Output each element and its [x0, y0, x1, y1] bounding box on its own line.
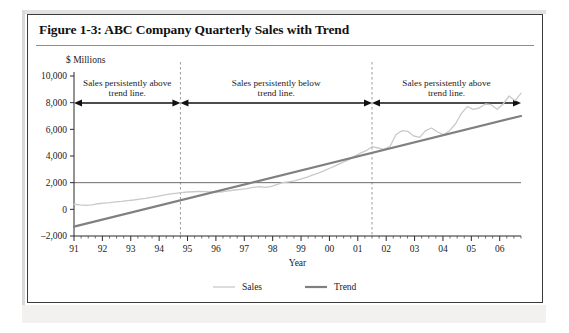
page-background: Figure 1-3: ABC Company Quarterly Sales …	[0, 0, 569, 333]
y-axis-tick-label: 8,000	[46, 98, 68, 108]
series-line-sales	[74, 93, 521, 205]
axis-label-group: Year	[289, 258, 307, 268]
annotation-text-line1: Sales persistently above	[402, 78, 490, 88]
annotation-text-line1: Sales persistently below	[232, 78, 321, 88]
x-axis-tick-label: 98	[268, 244, 278, 254]
x-axis-tick-label: 96	[211, 244, 221, 254]
x-axis-tick-label: 93	[126, 244, 136, 254]
y-axis-tick-label: 2,000	[46, 178, 68, 188]
scan-edge-bottom	[22, 305, 546, 323]
x-axis-tick-label: 99	[296, 244, 306, 254]
y-axis-tick-label: 10,000	[41, 71, 67, 81]
y-axis-tick-label: 0	[62, 205, 67, 215]
x-axis-tick-label: 00	[325, 244, 335, 254]
data-series-group	[74, 93, 521, 226]
annotation-text-line2: trend line.	[428, 88, 465, 98]
x-axis-tick-label: 01	[353, 244, 363, 254]
annotation-arrowhead-right	[172, 99, 180, 106]
x-axis-tick-label: 92	[98, 244, 108, 254]
x-axis-group: 91929394959697989900010203040506	[69, 236, 521, 254]
x-axis-tick-label: 94	[154, 244, 164, 254]
legend-group: SalesTrend	[213, 282, 357, 292]
y-axis-tick-label: –2,000	[40, 231, 67, 241]
sales-trend-line-chart: $ Millions Sales persistently abovetrend…	[28, 15, 544, 304]
annotation-arrowhead-left	[372, 99, 380, 106]
series-line-trend	[74, 116, 521, 227]
x-axis-tick-label: 05	[467, 244, 477, 254]
y-axis-tick-label: 4,000	[46, 151, 68, 161]
x-axis-tick-label: 97	[240, 244, 250, 254]
x-axis-title: Year	[289, 258, 307, 268]
annotations-group: Sales persistently abovetrend line.Sales…	[74, 78, 521, 107]
annotation-arrowhead-left	[74, 99, 82, 106]
legend-label-sales: Sales	[242, 282, 262, 292]
figure-container: Figure 1-3: ABC Company Quarterly Sales …	[27, 14, 543, 303]
annotation-arrowhead-left	[180, 99, 188, 106]
y-axis-unit-label-group: $ Millions	[66, 55, 106, 65]
scan-edge-left	[22, 10, 25, 323]
annotation-text-line2: trend line.	[109, 88, 146, 98]
y-axis-tick-label: 6,000	[46, 125, 68, 135]
legend-label-trend: Trend	[334, 282, 357, 292]
chart-plot-area: $ Millions Sales persistently abovetrend…	[28, 15, 544, 304]
y-axis-group: –2,00002,0004,0006,0008,00010,000	[40, 71, 74, 241]
x-axis-tick-label: 91	[69, 244, 79, 254]
annotation-arrowhead-right	[364, 99, 372, 106]
x-axis-tick-label: 02	[381, 244, 391, 254]
x-axis-tick-label: 04	[438, 244, 448, 254]
annotation-text-line1: Sales persistently above	[83, 78, 171, 88]
x-axis-tick-label: 03	[410, 244, 420, 254]
y-axis-unit-label: $ Millions	[66, 55, 106, 65]
x-axis-tick-label: 06	[495, 244, 505, 254]
x-axis-tick-label: 95	[183, 244, 193, 254]
annotation-text-line2: trend line.	[258, 88, 295, 98]
